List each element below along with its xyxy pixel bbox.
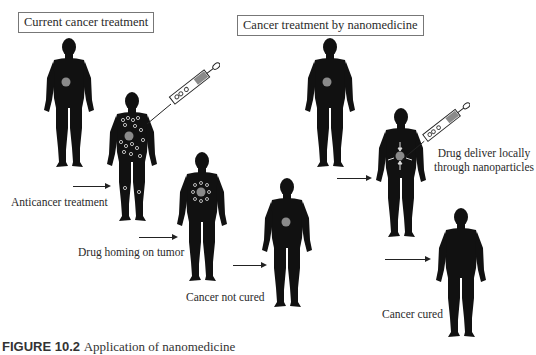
cancer-cured-label: Cancer cured [382, 307, 443, 321]
local-delivery-label-line1: Drug deliver locally [432, 146, 536, 160]
figure-caption-text: Application of nanomedicine [84, 339, 236, 354]
patient-silhouette-nano-initial [305, 38, 355, 168]
patient-silhouette-drug-homing [177, 152, 227, 282]
syringe-icon [145, 58, 220, 126]
figure-caption: FIGURE 10.2 Application of nanomedicine [2, 339, 235, 355]
nanomedicine-title: Cancer treatment by nanomedicine [237, 15, 424, 36]
patient-silhouette-cured [436, 208, 486, 338]
arrow-to-cured [385, 259, 429, 260]
figure-number: FIGURE 10.2 [2, 339, 80, 354]
arrow-to-drug-homing [139, 237, 176, 238]
patient-silhouette-initial [44, 38, 94, 168]
local-delivery-label-line2: through nanoparticles [432, 160, 536, 174]
arrow-to-local-delivery [337, 178, 370, 179]
arrow-to-not-cured [233, 265, 265, 266]
patient-silhouette-not-cured [262, 178, 312, 308]
local-delivery-label: Drug deliver locally through nanoparticl… [432, 146, 536, 174]
arrow-to-anticancer [73, 186, 109, 187]
tumor-icon [62, 78, 71, 87]
anticancer-treatment-label: Anticancer treatment [11, 195, 108, 209]
cancer-not-cured-label: Cancer not cured [186, 290, 265, 304]
current-treatment-title: Current cancer treatment [18, 12, 154, 33]
drug-homing-label: Drug homing on tumor [78, 245, 184, 259]
